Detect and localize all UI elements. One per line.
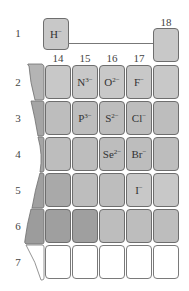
cell-Se: Se2−	[99, 137, 125, 171]
symbol-Se: Se	[103, 148, 114, 160]
charge-Se: 2−	[114, 148, 121, 156]
charge-Cl: −	[142, 112, 146, 120]
cell-H: H−	[43, 18, 69, 50]
cell-r2-g14	[45, 65, 71, 99]
charge-I: −	[139, 184, 143, 192]
cell-r7-g14	[45, 245, 71, 279]
charge-P: 3−	[84, 112, 91, 120]
cell-N: N3−	[72, 65, 98, 99]
cell-r3-g14	[45, 101, 71, 135]
symbol-Br: Br	[132, 148, 143, 160]
charge-F: −	[140, 76, 144, 84]
cell-r7-g15	[72, 245, 98, 279]
cell-r6-g18	[153, 209, 179, 243]
cell-r4-g18	[153, 137, 179, 171]
cell-r5-g16	[99, 173, 125, 207]
cell-r7-g18	[153, 245, 179, 279]
cell-r2-g18	[153, 65, 179, 99]
charge-H: −	[58, 28, 62, 36]
cell-r5-g15	[72, 173, 98, 207]
cell-r3-g18	[153, 101, 179, 135]
charge-O: 2−	[112, 76, 119, 84]
periodic-table-anion-diagram: 1 2 3 4 5 6 7 14 15 16 17 18 H− N3− O2− …	[0, 0, 189, 291]
cell-r7-g16	[99, 245, 125, 279]
cell-Cl: Cl−	[126, 101, 152, 135]
cell-Br: Br−	[126, 137, 152, 171]
cell-r6-g17	[126, 209, 152, 243]
cell-r5-g18	[153, 173, 179, 207]
cell-O: O2−	[99, 65, 125, 99]
cell-r4-g15	[72, 137, 98, 171]
cell-r1-g18	[153, 28, 179, 62]
cell-r6-g16	[99, 209, 125, 243]
symbol-O: O	[104, 76, 112, 88]
cell-r4-g14	[45, 137, 71, 171]
cell-S: S2−	[99, 101, 125, 135]
charge-N: 3−	[85, 76, 92, 84]
symbol-N: N	[77, 76, 85, 88]
cell-F: F−	[126, 65, 152, 99]
cell-P: P3−	[72, 101, 98, 135]
cell-r7-g17	[126, 245, 152, 279]
symbol-H: H	[50, 28, 58, 40]
cell-r6-g15	[72, 209, 98, 243]
cell-r6-g14	[45, 209, 71, 243]
charge-S: 2−	[111, 112, 118, 120]
row1-connector-line	[68, 43, 153, 44]
cell-I: I−	[126, 173, 152, 207]
symbol-Cl: Cl	[132, 112, 142, 124]
charge-Br: −	[143, 148, 147, 156]
cell-r5-g14	[45, 173, 71, 207]
